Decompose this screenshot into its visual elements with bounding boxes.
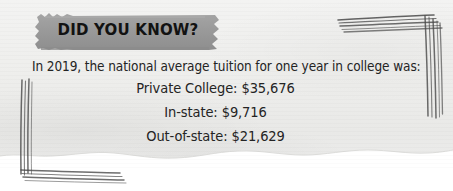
fact-text-block: In 2019, the national average tuition fo…	[0, 56, 453, 148]
stat-line-in-state: In-state: $9,716	[0, 100, 453, 124]
lead-line: In 2019, the national average tuition fo…	[0, 56, 453, 76]
stat-line-private-college: Private College: $35,676	[0, 76, 453, 100]
did-you-know-card: DID YOU KNOW? In 2019, the national aver…	[0, 0, 453, 191]
stat-line-out-of-state: Out-of-state: $21,629	[0, 124, 453, 148]
banner-title: DID YOU KNOW?	[33, 20, 223, 40]
